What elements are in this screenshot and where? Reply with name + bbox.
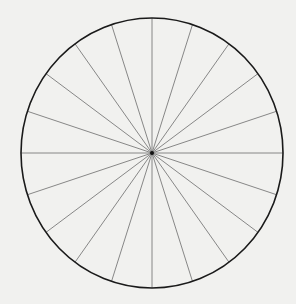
spoke-line <box>27 111 152 153</box>
spoke-line <box>152 153 192 281</box>
spoke-line <box>152 74 258 153</box>
spoke-line <box>27 153 152 195</box>
center-dot <box>150 151 154 155</box>
spoke-line <box>112 153 152 281</box>
spoke-line <box>46 153 152 232</box>
radial-wheel-diagram <box>0 0 296 304</box>
spoke-line <box>152 25 192 153</box>
spoke-line <box>152 153 277 195</box>
spoke-line <box>152 153 229 262</box>
spoke-line <box>152 153 258 232</box>
spoke-line <box>75 153 152 262</box>
spoke-line <box>152 44 229 153</box>
spoke-line <box>112 25 152 153</box>
spoke-line <box>75 44 152 153</box>
spoke-line <box>46 74 152 153</box>
spoke-line <box>152 111 277 153</box>
